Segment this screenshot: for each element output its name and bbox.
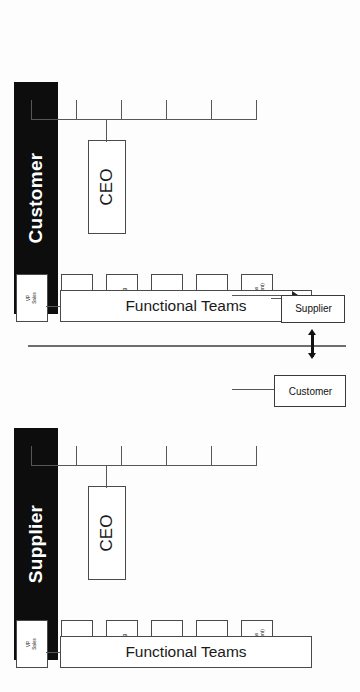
- vp-box-1-line2: Sales: [32, 292, 38, 304]
- ceo-label: CEO: [97, 169, 117, 206]
- vp-box-1-line2: Sales: [32, 638, 38, 650]
- org-chart-half-customer: Customer CEO VP Sales VP HR VP Mark: [0, 8, 322, 338]
- vp-box-1[interactable]: VP Sales: [16, 274, 48, 322]
- section-banner-label: Customer: [25, 152, 47, 243]
- ceo-stem-line: [106, 466, 107, 488]
- branch-line-vp-6: [256, 100, 257, 120]
- branch-line-vp-2: [76, 446, 77, 466]
- partner-box-supplier-label: Supplier: [295, 303, 332, 314]
- ceo-box-customer[interactable]: CEO: [88, 140, 126, 234]
- functional-teams-label: Functional Teams: [125, 643, 246, 661]
- partner-box-customer[interactable]: Customer: [274, 375, 346, 407]
- partner-box-customer-label: Customer: [288, 385, 331, 396]
- section-banner-label: Supplier: [25, 505, 47, 583]
- ceo-label: CEO: [97, 515, 117, 552]
- hierarchy-spine-line: [31, 119, 256, 120]
- branch-line-vp-5: [211, 446, 212, 466]
- branch-line-vp-3: [121, 446, 122, 466]
- ceo-box-supplier[interactable]: CEO: [88, 486, 126, 580]
- partner-box-supplier[interactable]: Supplier: [281, 295, 345, 323]
- supplier-customer-link-arrowhead-down: [308, 353, 316, 359]
- branch-line-vp-1: [31, 446, 32, 466]
- branch-line-vp-4: [166, 446, 167, 466]
- ceo-stem-line: [106, 120, 107, 142]
- branch-line-vp-6: [256, 446, 257, 466]
- branch-line-vp-5: [211, 100, 212, 120]
- branch-line-vp-3: [121, 100, 122, 120]
- hierarchy-spine-line: [31, 465, 256, 466]
- functional-teams-box[interactable]: Functional Teams: [60, 636, 312, 668]
- branch-line-vp-4: [166, 100, 167, 120]
- org-boundary-divider: [28, 345, 346, 347]
- diagram-canvas: Customer CEO VP Sales VP HR VP Mark: [0, 0, 360, 692]
- vp-box-1[interactable]: VP Sales: [16, 620, 48, 668]
- functional-teams-label: Functional Teams: [125, 297, 246, 315]
- branch-line-vp-2: [76, 100, 77, 120]
- supplier-customer-link-arrowhead-up: [308, 329, 316, 335]
- branch-line-vp-1: [31, 100, 32, 120]
